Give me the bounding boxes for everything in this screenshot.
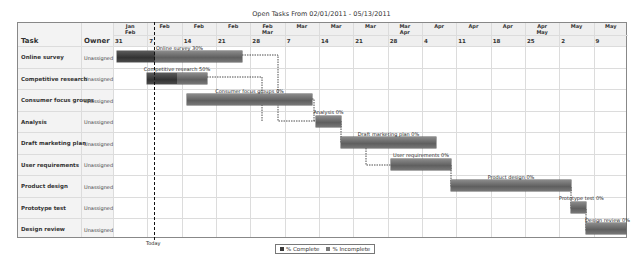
today-label: Today xyxy=(146,240,160,246)
task-bar-label: Prototype test 0% xyxy=(559,195,604,201)
task-bar[interactable] xyxy=(586,223,626,234)
task-bar[interactable] xyxy=(571,202,586,213)
task-bar[interactable] xyxy=(117,51,242,62)
task-bar-label: Analysis 0% xyxy=(313,109,343,115)
legend-complete-label: % Complete xyxy=(286,246,319,252)
legend: % Complete % Incomplete xyxy=(275,244,375,254)
legend-incomplete-swatch xyxy=(326,247,330,251)
legend-complete-swatch xyxy=(280,247,284,251)
task-bar-complete xyxy=(117,51,155,62)
task-bar[interactable] xyxy=(341,137,436,148)
legend-incomplete-label: % Incomplete xyxy=(332,246,370,252)
task-bar-label: Product design 0% xyxy=(488,174,535,180)
task-bar-label: Consumer focus groups 0% xyxy=(215,88,284,94)
task-bar[interactable] xyxy=(147,73,207,84)
task-bar-label: User requirements 0% xyxy=(393,152,449,158)
today-line xyxy=(154,22,155,240)
task-bar-label: Design review 0% xyxy=(585,217,630,223)
task-bar[interactable] xyxy=(187,94,312,105)
task-bar[interactable] xyxy=(316,116,341,127)
task-bar-label: Online survey 30% xyxy=(156,45,203,51)
task-bar-complete xyxy=(147,73,177,84)
task-bar[interactable] xyxy=(391,159,451,170)
task-bar-label: Draft marketing plan 0% xyxy=(358,131,420,137)
dependency-links xyxy=(0,0,643,266)
task-bar[interactable] xyxy=(451,180,571,191)
